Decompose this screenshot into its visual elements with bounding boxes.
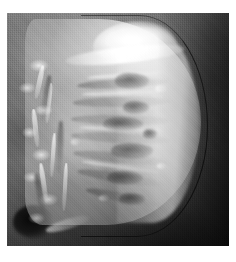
jellyfish-photograph	[7, 13, 229, 246]
photo-grain-overlay	[7, 13, 229, 246]
page-root: Grayscale photograph of a jellyfish in p…	[0, 0, 236, 262]
